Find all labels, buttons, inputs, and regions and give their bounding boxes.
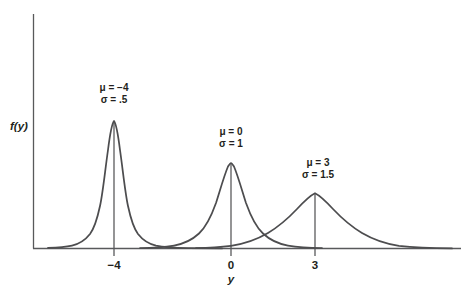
- annotation-mu-0-mean: μ = 0: [219, 126, 243, 138]
- annotation-mu-minus4-mean: μ = −4: [100, 82, 129, 94]
- x-axis-label: y: [228, 272, 234, 286]
- figure-container: f(y) −4 0 3 y μ = −4 σ = .5 μ = 0 σ = 1 …: [0, 0, 470, 289]
- y-axis-label-text: f(y): [10, 120, 28, 132]
- density-curve-mu-minus4: [48, 121, 222, 248]
- annotation-curve-mu-3: μ = 3 σ = 1.5: [302, 157, 334, 181]
- annotation-mu-minus4-sigma: σ = .5: [100, 94, 129, 106]
- x-axis-label-text: y: [228, 273, 234, 285]
- y-axis-label: f(y): [10, 119, 28, 133]
- x-tick-label-minus4: −4: [107, 258, 120, 272]
- annotation-mu-0-sigma: σ = 1: [219, 138, 243, 150]
- annotation-mu-3-sigma: σ = 1.5: [302, 169, 334, 181]
- density-curve-mu-3: [196, 193, 452, 248]
- annotation-curve-mu-0: μ = 0 σ = 1: [219, 126, 243, 150]
- x-tick-label-3: 3: [312, 258, 318, 272]
- annotation-mu-3-mean: μ = 3: [302, 157, 334, 169]
- x-tick-label-0: 0: [228, 258, 234, 272]
- annotation-curve-mu-minus4: μ = −4 σ = .5: [100, 82, 129, 106]
